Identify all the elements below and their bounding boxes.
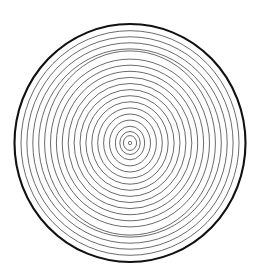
rings-group xyxy=(15,24,246,262)
inner-ring-5 xyxy=(45,51,216,235)
inner-ring-7 xyxy=(56,65,203,221)
concentric-rings-diagram xyxy=(0,0,258,277)
inner-ring-8 xyxy=(62,71,197,214)
inner-ring-19 xyxy=(123,136,136,151)
inner-ring-14 xyxy=(98,108,163,178)
inner-ring-2 xyxy=(27,37,233,249)
center-dot xyxy=(128,141,131,144)
inner-ring-11 xyxy=(80,90,180,197)
outer-circle xyxy=(15,24,246,262)
inner-ring-12 xyxy=(86,96,174,191)
inner-ring-18 xyxy=(120,132,140,155)
inner-ring-15 xyxy=(104,114,157,172)
inner-ring-1 xyxy=(21,31,239,256)
inner-ring-10 xyxy=(74,84,186,203)
inner-ring-9 xyxy=(68,77,192,208)
figure-canvas xyxy=(0,0,258,277)
